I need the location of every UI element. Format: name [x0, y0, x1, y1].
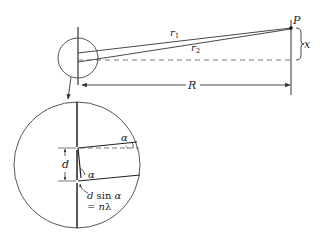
- x-brace: [296, 28, 304, 60]
- ray-r2: [78, 29, 291, 62]
- label-x: x: [304, 38, 311, 51]
- zoom-arrow: [68, 77, 71, 99]
- label-path-diff-line1: d sin α: [87, 190, 122, 201]
- ray-r1: [78, 28, 291, 53]
- label-p: P: [292, 14, 301, 27]
- overview-diagram: P r1 r2 x R: [58, 14, 311, 99]
- label-path-diff-line2: = nλ: [87, 201, 112, 212]
- magnified-view: α α d d sin α = nλ: [14, 102, 140, 228]
- path-difference-line: [78, 148, 81, 178]
- label-alpha-top: α: [121, 132, 128, 143]
- label-d: d: [62, 158, 69, 171]
- label-r-distance: R: [187, 79, 196, 92]
- angle-tick: [126, 146, 128, 149]
- angle-arc-top: [132, 143, 133, 149]
- label-alpha-bottom: α: [88, 169, 95, 180]
- upper-ray: [78, 142, 137, 148]
- label-r2: r2: [191, 42, 200, 55]
- double-slit-diagram: P r1 r2 x R α α: [0, 0, 320, 241]
- label-r1: r1: [170, 27, 179, 40]
